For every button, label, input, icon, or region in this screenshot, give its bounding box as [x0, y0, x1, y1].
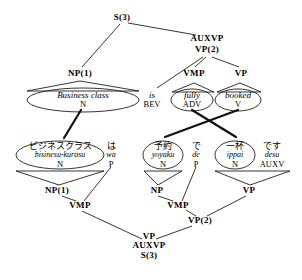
leaf-bisinesu-kurasu: ビジネスクラス bisinesu-kurasu N [29, 142, 92, 169]
leaf-ippai: 一杯 ippai N [226, 142, 244, 169]
funnel-np-sides [144, 171, 182, 185]
edge-de-to-vmp2 [182, 167, 196, 201]
leaf-pos-yoyaku: N [152, 159, 175, 168]
leaf-pos-fully: ADV [183, 100, 201, 109]
leaf-pos-wa: P [106, 159, 115, 168]
leaf-business-class: Business class N [57, 91, 109, 109]
node-vmp-top: VMP [183, 69, 204, 78]
leaf-pos-ippai: N [226, 159, 244, 168]
node-root-bottom: VP AUXVP S(3) [133, 232, 166, 260]
edge-wa-to-vmp [84, 167, 111, 201]
link-booked-to-yoyaku [165, 110, 238, 137]
leaf-pos-booked: V [225, 100, 251, 109]
leaf-pos-de: P [192, 159, 201, 168]
leaf-yoyaku: 予約 yoyaku N [152, 142, 175, 169]
japanese-leaf-hats [16, 171, 290, 185]
node-s3-top: S(3) [114, 13, 131, 22]
node-vp-bottom: VP [243, 186, 256, 195]
leaf-pos-desu: AUXV [260, 159, 285, 168]
node-root-s3: S(3) [133, 251, 166, 260]
node-np1-bottom: NP(1) [45, 186, 69, 195]
node-np1-top: NP(1) [68, 69, 92, 78]
syntax-tree-diagram: S(3) AUXVP VP(2) NP(1) VMP VP Business c… [0, 0, 302, 280]
funnel-np1-sides [16, 171, 104, 185]
node-vp2-bottom: VP(2) [188, 216, 212, 225]
leaf-pos-business-class: N [57, 100, 109, 109]
leaf-is: is BEV [144, 91, 161, 109]
node-vp2-top: VP(2) [195, 45, 219, 54]
node-auxvp-top: AUXVP [191, 34, 224, 43]
alignment-links [64, 110, 238, 138]
node-vp-top: VP [235, 69, 248, 78]
node-np-bottom: NP [151, 186, 164, 195]
node-vmp-bottom-right: VMP [167, 201, 188, 210]
edge-s-to-np [82, 24, 120, 67]
leaf-wa: は wa P [106, 142, 115, 169]
leaf-pos-bisinesu-kurasu: N [29, 159, 92, 168]
edge-vp2-to-vp [212, 57, 239, 67]
edge-vp-to-vp2 [207, 196, 246, 216]
leaf-fully: fully ADV [183, 91, 201, 109]
leaf-de: で de P [192, 142, 201, 169]
link-business-class-to-bisinesu-kurasu [64, 110, 81, 138]
node-vmp-bottom-left: VMP [69, 201, 90, 210]
funnel-vp-sides [215, 171, 290, 185]
leaf-booked: booked V [225, 91, 251, 109]
edge-s-to-auxvp [128, 23, 196, 35]
leaf-pos-is: BEV [144, 100, 161, 109]
leaf-desu: です desu AUXV [260, 142, 285, 169]
